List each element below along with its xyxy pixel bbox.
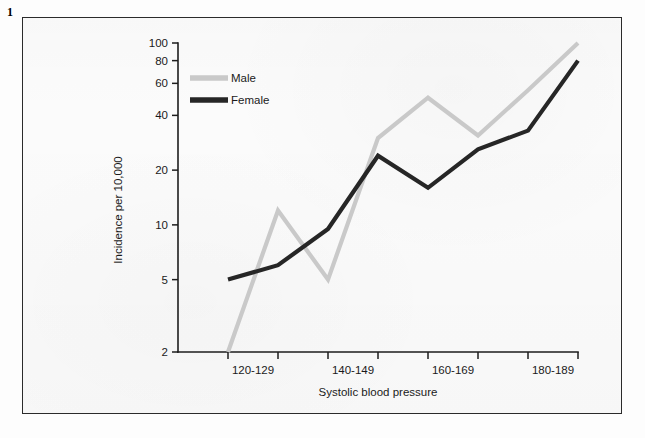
x-axis-tick-label: 140-149 xyxy=(332,364,374,376)
legend-label-male: Male xyxy=(231,72,256,84)
series-group xyxy=(228,43,578,352)
y-axis-tick-labels: 100806040201052 xyxy=(149,37,168,358)
x-axis-tick-label: 120-129 xyxy=(232,364,274,376)
x-axis-ticks xyxy=(228,352,578,359)
y-axis-tick-label: 80 xyxy=(155,55,168,67)
y-axis-tick-label: 10 xyxy=(155,219,168,231)
y-axis-ticks xyxy=(172,43,178,352)
x-axis-title: Systolic blood pressure xyxy=(319,386,438,398)
x-axis-tick-label: 180-189 xyxy=(532,364,574,376)
x-axis-tick-label: 160-169 xyxy=(432,364,474,376)
series-line-male xyxy=(228,43,578,352)
y-axis-title: Incidence per 10,000 xyxy=(112,156,124,263)
figure-page: 1 100806040201052 120-129140-149160-1691… xyxy=(0,0,645,438)
legend: Male Female xyxy=(190,72,269,106)
y-axis-tick-label: 2 xyxy=(162,346,168,358)
axes xyxy=(178,43,578,352)
y-axis-tick-label: 60 xyxy=(155,77,168,89)
y-axis-tick-label: 5 xyxy=(162,274,168,286)
y-axis-tick-label: 20 xyxy=(155,164,168,176)
y-axis-tick-label: 40 xyxy=(155,109,168,121)
y-axis-tick-label: 100 xyxy=(149,37,168,49)
legend-label-female: Female xyxy=(231,94,269,106)
x-axis-tick-labels: 120-129140-149160-169180-189 xyxy=(232,364,574,376)
line-chart: 100806040201052 120-129140-149160-169180… xyxy=(0,0,645,438)
